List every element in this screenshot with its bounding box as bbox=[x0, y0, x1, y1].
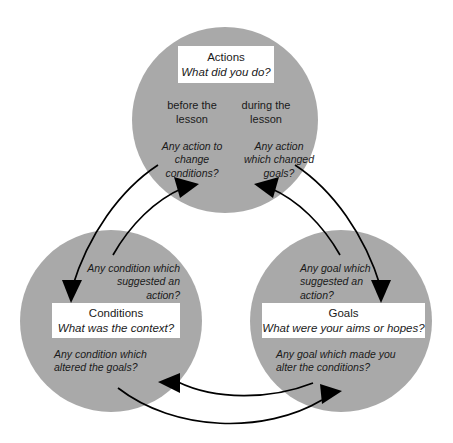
edge-label-goal-suggested-action: Any goal which suggested an action? bbox=[300, 262, 420, 302]
goals-title: Goals bbox=[328, 306, 358, 320]
actions-question: What did you do? bbox=[181, 65, 271, 79]
goals-question: What were your aims or hopes? bbox=[262, 321, 424, 335]
edge-label-action-which-changed-goals: Any action which changed goals? bbox=[234, 140, 324, 180]
edge-goals-to-actions bbox=[270, 188, 340, 255]
edge-goals-to-conditions bbox=[178, 382, 313, 396]
conditions-label-box: Conditions What was the context? bbox=[52, 303, 180, 338]
arrowhead-to-conditions-bottom bbox=[158, 373, 180, 393]
edge-label-condition-suggested-action: Any condition which suggested an action? bbox=[52, 262, 180, 302]
edge-label-action-to-change-conditions: Any action to change conditions? bbox=[146, 140, 238, 180]
edge-conditions-to-actions bbox=[113, 188, 183, 255]
arrowhead-to-goals-bottom bbox=[320, 384, 342, 404]
edge-label-condition-altered-goals: Any condition which altered the goals? bbox=[54, 348, 186, 375]
goals-label-box: Goals What were your aims or hopes? bbox=[262, 303, 425, 338]
actions-title: Actions bbox=[207, 50, 245, 64]
reflective-cycle-diagram: Actions What did you do? Conditions What… bbox=[0, 0, 453, 443]
conditions-title: Conditions bbox=[89, 306, 143, 320]
edge-label-goal-made-you-alter-conditions: Any goal which made you alter the condit… bbox=[276, 348, 426, 375]
conditions-question: What was the context? bbox=[58, 321, 174, 335]
actions-label-box: Actions What did you do? bbox=[178, 46, 274, 83]
phase-label-during-lesson: during the lesson bbox=[222, 98, 310, 127]
